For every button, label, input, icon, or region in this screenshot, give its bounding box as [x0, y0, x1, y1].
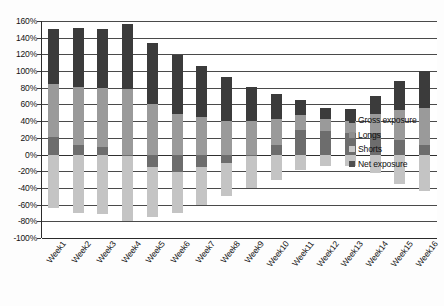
- y-tick-label: 60%: [21, 99, 37, 109]
- bar-segment-net: [271, 145, 282, 155]
- bar-segment-shorts: [97, 155, 108, 214]
- x-tick-label: Week12: [314, 239, 340, 269]
- bar-group[interactable]: [147, 21, 158, 238]
- x-tick-label: Week7: [193, 239, 216, 265]
- x-tick-label: Week8: [218, 239, 241, 265]
- legend-item[interactable]: Shorts: [349, 142, 441, 157]
- legend-swatch-icon: [349, 161, 355, 167]
- chart-legend: Gross exposureLongsShortsNet exposure: [349, 113, 441, 171]
- bar-segment-shorts: [295, 155, 306, 170]
- y-axis: 160%140%120%100%80%60%40%20%0%-20%-40%-6…: [0, 21, 41, 238]
- bar-segment-gross: [73, 28, 84, 87]
- x-tick-label: Week1: [45, 239, 68, 265]
- x-tick-label: Week6: [169, 239, 192, 265]
- bar-segment-shorts: [48, 155, 59, 208]
- y-tick-label: -100%: [13, 233, 37, 243]
- bar-group[interactable]: [97, 21, 108, 238]
- bar-group[interactable]: [122, 21, 133, 238]
- bar-group[interactable]: [271, 21, 282, 238]
- bar-segment-gross: [48, 29, 59, 83]
- x-tick-label: Week4: [119, 239, 142, 265]
- legend-item[interactable]: Gross exposure: [349, 113, 441, 128]
- bar-group[interactable]: [246, 21, 257, 238]
- legend-item[interactable]: Net exposure: [349, 157, 441, 172]
- bar-segment-net: [97, 147, 108, 155]
- bar-segment-gross: [221, 77, 232, 121]
- y-tick-label: -60%: [18, 200, 37, 210]
- x-axis: Week1Week2Week3Week4Week5Week6Week7Week8…: [41, 239, 437, 299]
- bar-segment-gross: [246, 87, 257, 121]
- y-tick-label: 100%: [16, 66, 37, 76]
- bar-segment-net: [122, 155, 133, 157]
- bar-group[interactable]: [73, 21, 84, 238]
- bar-segment-net: [172, 155, 183, 173]
- bar-segment-gross: [419, 71, 430, 108]
- bar-segment-longs: [97, 88, 108, 155]
- bar-segment-net: [73, 145, 84, 154]
- y-tick-label: 120%: [16, 49, 37, 59]
- bar-segment-gross: [147, 43, 158, 105]
- bar-group[interactable]: [295, 21, 306, 238]
- x-tick-label: Week13: [339, 239, 365, 269]
- bar-segment-net: [295, 130, 306, 154]
- x-tick-label: Week16: [413, 239, 439, 269]
- y-tick-label: 80%: [21, 83, 37, 93]
- bar-segment-net: [246, 155, 257, 156]
- legend-label: Net exposure: [358, 159, 407, 169]
- bar-segment-net: [196, 155, 207, 168]
- bar-segment-gross: [394, 81, 405, 110]
- y-tick-label: 40%: [21, 116, 37, 126]
- bar-segment-longs: [172, 114, 183, 155]
- legend-item[interactable]: Longs: [349, 128, 441, 143]
- bar-segment-longs: [196, 117, 207, 155]
- bar-group[interactable]: [221, 21, 232, 238]
- bar-segment-net: [147, 155, 158, 168]
- legend-label: Gross exposure: [358, 115, 417, 125]
- legend-swatch-icon: [349, 132, 355, 138]
- bar-segment-longs: [221, 121, 232, 154]
- y-tick-label: -40%: [18, 183, 37, 193]
- bar-segment-longs: [246, 121, 257, 154]
- x-tick-label: Week3: [94, 239, 117, 265]
- bar-segment-shorts: [271, 155, 282, 180]
- x-tick-label: Week11: [290, 239, 316, 268]
- x-tick-label: Week14: [364, 239, 390, 269]
- bar-segment-longs: [122, 89, 133, 154]
- legend-label: Longs: [358, 130, 381, 140]
- bar-segment-gross: [320, 108, 331, 120]
- y-tick-label: 0%: [25, 150, 37, 160]
- x-tick-label: Week5: [144, 239, 167, 265]
- bar-segment-shorts: [122, 155, 133, 222]
- y-tick-label: -80%: [18, 216, 37, 226]
- y-tick-label: 20%: [21, 133, 37, 143]
- legend-swatch-icon: [349, 146, 355, 152]
- legend-swatch-icon: [349, 117, 355, 123]
- y-tick-label: -20%: [18, 166, 37, 176]
- bar-group[interactable]: [48, 21, 59, 238]
- x-tick-label: Week15: [389, 239, 415, 269]
- bar-group[interactable]: [320, 21, 331, 238]
- legend-label: Shorts: [358, 144, 382, 154]
- bar-segment-gross: [271, 94, 282, 119]
- bar-segment-shorts: [246, 155, 257, 188]
- bar-segment-gross: [97, 29, 108, 88]
- chart-root: 160%140%120%100%80%60%40%20%0%-20%-40%-6…: [0, 0, 444, 306]
- bar-segment-longs: [147, 104, 158, 154]
- x-tick-label: Week2: [70, 239, 93, 265]
- x-tick-label: Week9: [243, 239, 266, 265]
- y-tick-label: 160%: [16, 16, 37, 26]
- bar-segment-gross: [172, 55, 183, 113]
- bar-segment-net: [221, 155, 232, 163]
- bar-group[interactable]: [196, 21, 207, 238]
- bar-group[interactable]: [172, 21, 183, 238]
- x-tick-label: Week10: [265, 239, 291, 269]
- bar-segment-net: [48, 137, 59, 155]
- bar-segment-gross: [122, 24, 133, 90]
- bar-segment-gross: [295, 100, 306, 115]
- bar-segment-shorts: [73, 155, 84, 213]
- bar-segment-net: [320, 131, 331, 154]
- bar-segment-shorts: [320, 155, 331, 167]
- bar-segment-gross: [196, 66, 207, 117]
- y-tick-label: 140%: [16, 33, 37, 43]
- bar-segment-gross: [370, 96, 381, 114]
